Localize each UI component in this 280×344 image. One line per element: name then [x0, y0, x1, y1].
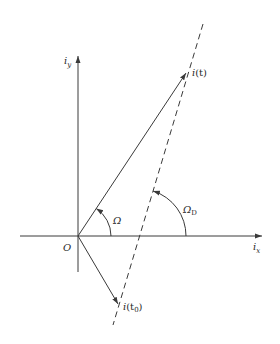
- omega-angle-label: Ω: [112, 215, 121, 226]
- dashed-locus-line: [113, 24, 203, 325]
- x-axis-label: ix: [253, 241, 260, 255]
- omega-d-angle-label: ΩD: [182, 204, 197, 217]
- vector-i-t0: [78, 236, 118, 304]
- omega-d-angle-arc: [153, 191, 186, 236]
- y-axis-label: iy: [64, 55, 72, 69]
- vector-i-t-label: i(t): [192, 67, 207, 78]
- omega-angle-arc: [96, 209, 111, 237]
- vector-i-t: [78, 73, 186, 236]
- origin-label: O: [63, 242, 71, 253]
- phasor-diagram: iy ix O i(t) i(t0) Ω ΩD: [0, 0, 280, 344]
- vector-i-t0-label: i(t0): [123, 301, 143, 314]
